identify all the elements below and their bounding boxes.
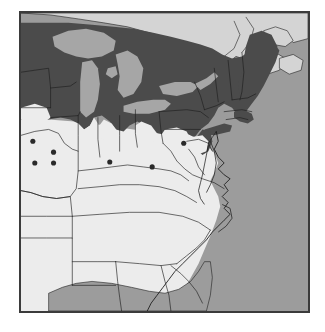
- map-dot-marker: [150, 164, 155, 169]
- map-dot-marker: [181, 141, 186, 146]
- map-canvas: [21, 13, 308, 311]
- map-dot-marker: [30, 139, 35, 144]
- map-dot-marker: [51, 160, 56, 165]
- map-frame: [19, 11, 310, 313]
- map-dot-marker: [107, 159, 112, 164]
- map-dot-marker: [32, 160, 37, 165]
- map-dot-marker: [51, 150, 56, 155]
- map-figure: Eastern United States Shaded states Poin…: [0, 0, 325, 332]
